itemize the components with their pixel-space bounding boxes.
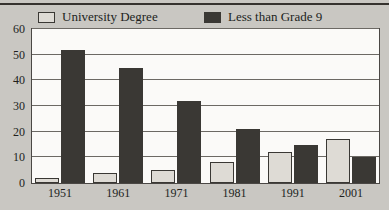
x-tick-label: 1951 — [48, 186, 72, 200]
light-square-icon — [38, 12, 55, 23]
legend-entry-less-than-grade-9: Less than Grade 9 — [204, 8, 322, 26]
y-tick-label: 30 — [13, 100, 25, 112]
dark-square-icon — [204, 12, 221, 23]
legend-label: University Degree — [62, 10, 158, 24]
bar-1961-series-0 — [93, 173, 117, 183]
x-tick-label: 2001 — [339, 186, 363, 200]
x-tick-label: 1971 — [164, 186, 188, 200]
y-tick-label: 60 — [13, 23, 25, 35]
bar-1981-series-0 — [210, 162, 234, 183]
chart-legend: University Degree Less than Grade 9 — [0, 8, 389, 26]
x-tick-label: 1961 — [106, 186, 130, 200]
bar-1991-series-0 — [268, 152, 292, 183]
bar-1981-series-1 — [236, 129, 260, 183]
y-axis: 0102030405060 — [0, 28, 28, 184]
y-tick-label: 0 — [19, 177, 25, 189]
y-tick-label: 10 — [13, 151, 25, 163]
bar-chart-figure: University Degree Less than Grade 9 0102… — [0, 0, 389, 210]
y-tick-label: 40 — [13, 74, 25, 86]
y-tick-label: 20 — [13, 126, 25, 138]
bar-1991-series-1 — [294, 145, 318, 184]
legend-entry-university-degree: University Degree — [38, 8, 158, 26]
bar-2001-series-0 — [326, 139, 350, 183]
x-axis: 195119611971198119912001 — [31, 185, 380, 205]
x-tick-label: 1991 — [281, 186, 305, 200]
bar-1971-series-1 — [177, 101, 201, 183]
y-tick-label: 50 — [13, 49, 25, 61]
bar-1951-series-1 — [61, 50, 85, 183]
bar-2001-series-1 — [352, 157, 376, 183]
legend-label: Less than Grade 9 — [228, 10, 322, 24]
bar-1951-series-0 — [35, 178, 59, 183]
x-tick-label: 1981 — [223, 186, 247, 200]
bars-layer — [31, 28, 380, 184]
bar-1961-series-1 — [119, 68, 143, 184]
bar-1971-series-0 — [151, 170, 175, 183]
top-divider-rule — [0, 3, 389, 5]
